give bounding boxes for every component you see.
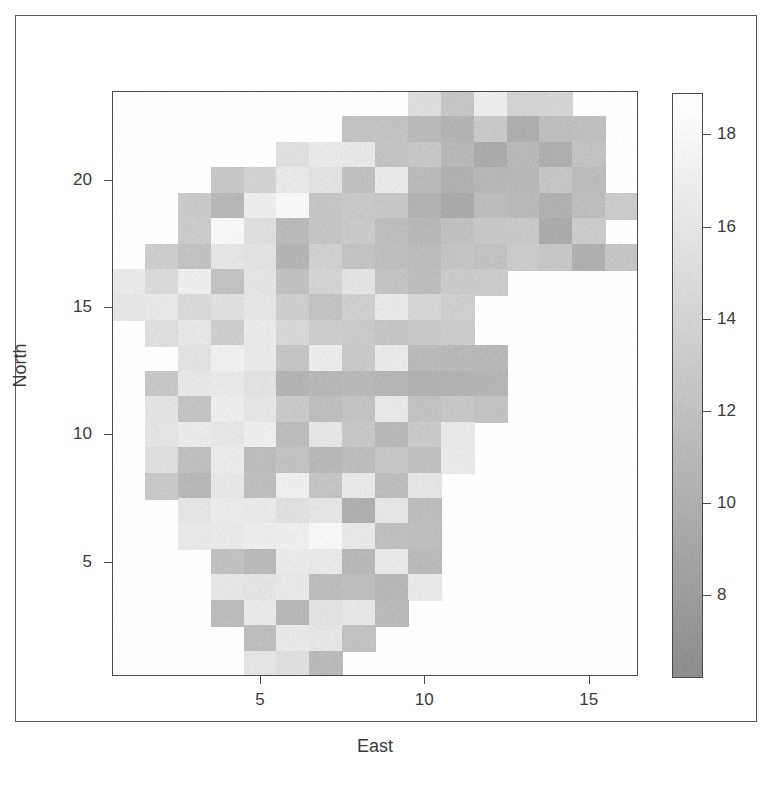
x-tick-label: 10: [415, 690, 434, 710]
y-axis-title: North: [10, 286, 31, 446]
y-tick-mark: [104, 180, 112, 181]
heatmap-canvas: [113, 92, 637, 675]
y-tick-label: 10: [42, 424, 92, 444]
colorbar-tick-label: 14: [717, 309, 736, 329]
colorbar-tick-mark: [703, 134, 711, 135]
colorbar-tick-mark: [703, 227, 711, 228]
colorbar-tick-label: 18: [717, 124, 736, 144]
figure-root: 51015 5101520 East North 18161412108: [0, 0, 775, 792]
colorbar-tick-label: 16: [717, 217, 736, 237]
x-tick-label: 5: [255, 690, 264, 710]
colorbar-tick-mark: [703, 595, 711, 596]
x-tick-mark: [589, 676, 590, 684]
y-tick-mark: [104, 434, 112, 435]
y-tick-mark: [104, 562, 112, 563]
colorbar-tick-label: 10: [717, 493, 736, 513]
y-tick-label: 20: [42, 170, 92, 190]
y-tick-label: 5: [42, 552, 92, 572]
heatmap-plot-panel[interactable]: [112, 91, 638, 676]
x-tick-mark: [260, 676, 261, 684]
x-tick-label: 15: [579, 690, 598, 710]
colorbar-gradient: [673, 94, 702, 677]
x-tick-mark: [424, 676, 425, 684]
colorbar-tick-mark: [703, 503, 711, 504]
y-tick-label: 15: [42, 297, 92, 317]
x-axis-title: East: [112, 736, 638, 757]
colorbar-tick-mark: [703, 319, 711, 320]
y-tick-mark: [104, 307, 112, 308]
colorbar-tick-label: 12: [717, 401, 736, 421]
colorbar-tick-label: 8: [717, 585, 726, 605]
colorbar-panel[interactable]: [672, 93, 703, 678]
colorbar-tick-mark: [703, 411, 711, 412]
